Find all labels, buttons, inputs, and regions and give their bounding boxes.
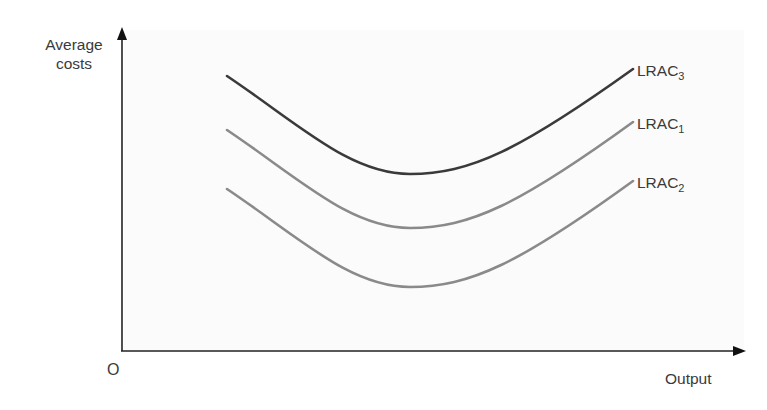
y-axis-label-line2: costs bbox=[30, 54, 118, 73]
label-lrac3: LRAC3 bbox=[637, 63, 684, 82]
y-axis-label-line1: Average bbox=[30, 35, 118, 54]
label-lrac2-sub: 2 bbox=[678, 182, 684, 194]
y-axis-arrow-icon bbox=[117, 27, 127, 40]
label-lrac2-main: LRAC bbox=[637, 174, 678, 191]
label-lrac1-sub: 1 bbox=[678, 123, 684, 135]
origin-label: O bbox=[107, 362, 119, 378]
curve-lrac1 bbox=[227, 122, 633, 228]
curve-lrac2 bbox=[227, 181, 633, 287]
curve-lrac3 bbox=[227, 69, 633, 174]
label-lrac2: LRAC2 bbox=[637, 175, 684, 194]
label-lrac3-main: LRAC bbox=[637, 62, 678, 79]
label-lrac1-main: LRAC bbox=[637, 115, 678, 132]
x-axis-label: Output bbox=[665, 371, 712, 387]
x-axis-arrow-icon bbox=[733, 346, 746, 356]
y-axis-label: Average costs bbox=[30, 35, 118, 73]
label-lrac1: LRAC1 bbox=[637, 116, 684, 135]
label-lrac3-sub: 3 bbox=[678, 70, 684, 82]
